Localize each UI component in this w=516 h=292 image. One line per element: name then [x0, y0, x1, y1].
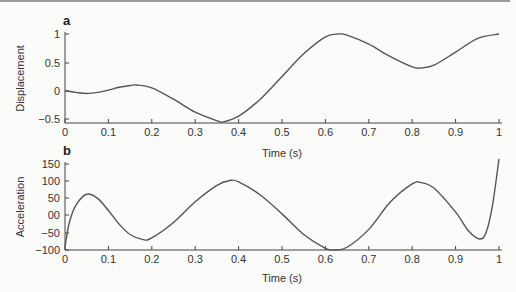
y-tick-label: 1: [54, 28, 60, 40]
x-tick-label: 0.1: [101, 253, 116, 265]
x-tick-label: 1: [496, 253, 502, 265]
y-tick-label: 100: [42, 175, 60, 187]
x-tick-label: 0.8: [405, 126, 420, 138]
y-axis-label: Acceleration: [14, 177, 26, 238]
y-tick-label: 150: [42, 158, 60, 170]
x-tick-label: 0.5: [274, 126, 289, 138]
y-axis-label: Displacement: [14, 45, 26, 112]
y-tick-label: 50: [48, 192, 60, 204]
x-tick-label: 0.8: [405, 253, 420, 265]
x-tick-label: 1: [496, 126, 502, 138]
x-tick-label: 0.4: [231, 253, 246, 265]
y-tick-label: 00: [48, 209, 60, 221]
x-tick-label: 0: [62, 126, 68, 138]
x-tick-label: 0.9: [448, 126, 463, 138]
x-tick-label: 0.9: [448, 253, 463, 265]
panel-label-a: a: [63, 13, 71, 28]
x-tick-label: 0.4: [231, 126, 246, 138]
x-tick-label: 0.6: [318, 126, 333, 138]
x-tick-label: 0.7: [361, 253, 376, 265]
y-tick-label: 0: [54, 85, 60, 97]
series-line-displacement: [65, 34, 499, 122]
x-tick-label: 0.3: [188, 126, 203, 138]
y-tick-label: 0.5: [45, 57, 60, 69]
y-tick-label: −100: [35, 244, 60, 256]
series-line-acceleration: [65, 159, 499, 250]
x-tick-label: 0.5: [274, 253, 289, 265]
x-tick-label: 0.1: [101, 126, 116, 138]
x-tick-label: 0.3: [188, 253, 203, 265]
x-tick-label: 0: [62, 253, 68, 265]
y-tick-label: −50: [41, 227, 60, 239]
x-tick-label: 0.6: [318, 253, 333, 265]
y-tick-label: −0.5: [38, 113, 60, 125]
x-tick-label: 0.2: [144, 253, 159, 265]
x-axis-label: Time (s): [262, 272, 302, 284]
x-axis-label: Time (s): [262, 147, 302, 159]
panel-b: b1501005000−50−10000.10.20.30.40.50.60.7…: [14, 143, 502, 284]
x-tick-label: 0.7: [361, 126, 376, 138]
figure: a10.50−0.500.10.20.30.40.50.60.70.80.91T…: [0, 0, 516, 292]
x-tick-label: 0.2: [144, 126, 159, 138]
panel-label-b: b: [63, 143, 71, 158]
panel-a: a10.50−0.500.10.20.30.40.50.60.70.80.91T…: [14, 13, 502, 159]
